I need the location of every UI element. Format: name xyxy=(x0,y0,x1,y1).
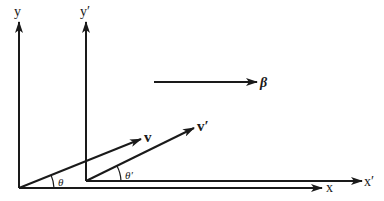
y-axis-label: y xyxy=(14,4,21,19)
unprimed-frame: y x xyxy=(14,4,333,195)
v-prime-label: v′ xyxy=(197,118,209,134)
y-prime-axis-label: y′ xyxy=(80,4,90,19)
reference-frames-diagram: y x y′ x′ v θ v′ θ′ β xyxy=(0,0,384,201)
beta-velocity: β xyxy=(154,75,268,90)
theta-prime-arrow-arc xyxy=(117,166,121,181)
x-axis-label: x xyxy=(326,180,333,195)
theta-label: θ xyxy=(58,176,64,188)
v-label: v xyxy=(144,129,152,145)
vector-v-prime: v′ θ′ xyxy=(86,118,209,181)
theta-prime-label: θ′ xyxy=(125,169,133,181)
x-prime-axis-label: x′ xyxy=(364,174,374,189)
theta-arc xyxy=(51,175,54,188)
beta-label: β xyxy=(259,75,268,90)
